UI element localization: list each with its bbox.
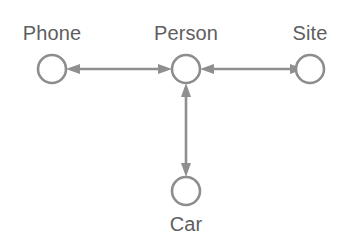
node-circle-phone[interactable] bbox=[38, 55, 66, 83]
arrow-head-toward-person-from-site bbox=[200, 64, 214, 74]
edge-phone-person bbox=[66, 64, 172, 74]
node-circle-site[interactable] bbox=[296, 55, 324, 83]
node-circle-person[interactable] bbox=[172, 55, 200, 83]
node-label-person: Person bbox=[134, 22, 238, 44]
arrow-head-toward-phone bbox=[66, 64, 80, 74]
arrow-head-toward-car bbox=[181, 163, 191, 177]
node-label-site: Site bbox=[258, 22, 345, 44]
diagram-canvas: Phone Person Site Car bbox=[0, 0, 345, 248]
arrow-head-toward-person-from-phone bbox=[158, 64, 172, 74]
edge-car-person bbox=[181, 83, 191, 177]
node-label-car: Car bbox=[134, 213, 238, 235]
edge-site-person bbox=[200, 64, 304, 74]
arrow-head-toward-person-from-car bbox=[181, 83, 191, 97]
node-label-phone: Phone bbox=[0, 22, 104, 44]
node-circle-car[interactable] bbox=[172, 177, 200, 205]
